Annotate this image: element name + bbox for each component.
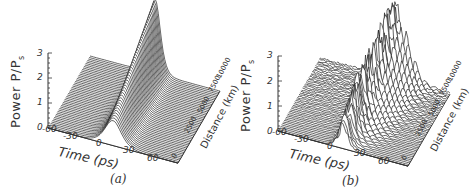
x-tick-60-a: 60 xyxy=(147,153,158,163)
y-tick-3-a: 3 xyxy=(37,48,43,58)
x-tick-m60-b: -60 xyxy=(272,127,287,137)
y-tick-2-a: 2 xyxy=(37,72,43,82)
y-axis-label-b: Power P/Ps xyxy=(238,59,256,132)
x-tick-m30-b: -30 xyxy=(294,134,309,144)
y-tick-2-b: 2 xyxy=(267,76,273,86)
x-tick-30-b: 30 xyxy=(354,148,365,158)
x-tick-0-b: 0 xyxy=(327,141,333,151)
x-tick-0-a: 0 xyxy=(96,138,102,148)
chart-panel-a: Power P/Ps 3 2 1 0 -60 -30 0 30 60 Time … xyxy=(0,0,234,193)
x-tick-m30-a: -30 xyxy=(63,131,78,141)
y-tick-1-b: 1 xyxy=(267,101,273,111)
caption-b: (b) xyxy=(342,174,359,188)
x-tick-60-b: 60 xyxy=(378,156,389,166)
y-tick-3-b: 3 xyxy=(267,50,273,60)
waterfall-plot-b xyxy=(234,0,468,193)
caption-a: (a) xyxy=(110,172,127,186)
x-tick-30-a: 30 xyxy=(123,145,134,155)
y-tick-1-a: 1 xyxy=(37,97,43,107)
x-tick-m60-a: -60 xyxy=(42,124,57,134)
chart-panel-b: Power P/Ps 3 2 1 0 -60 -30 0 30 60 Time … xyxy=(234,0,468,193)
y-axis-label-a: Power P/Ps xyxy=(8,55,26,128)
